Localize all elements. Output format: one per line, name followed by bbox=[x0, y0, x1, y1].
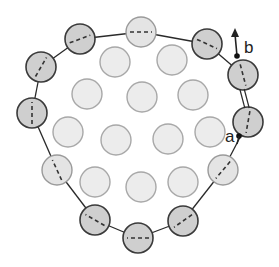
label-a: a bbox=[225, 127, 235, 146]
arrow-up-icon bbox=[231, 28, 239, 37]
boundary-particle bbox=[17, 98, 47, 128]
point-b-marker bbox=[234, 53, 240, 59]
boundary-particle bbox=[192, 29, 222, 59]
arrow-b-shaft bbox=[235, 34, 237, 56]
double-link-line bbox=[240, 89, 245, 108]
interior-particle bbox=[72, 79, 102, 109]
boundary-particle bbox=[233, 107, 263, 137]
interior-particle bbox=[153, 124, 183, 154]
boundary-particle bbox=[228, 60, 258, 90]
double-link-line bbox=[244, 89, 249, 108]
cluster-diagram: b a bbox=[0, 0, 279, 267]
boundary-particle bbox=[65, 24, 95, 54]
interior-particle bbox=[126, 172, 156, 202]
boundary-particle bbox=[123, 223, 153, 253]
interior-particle bbox=[53, 117, 83, 147]
label-b: b bbox=[244, 38, 253, 57]
interior-particle bbox=[80, 167, 110, 197]
interior-particle bbox=[178, 80, 208, 110]
boundary-particle bbox=[42, 155, 72, 185]
boundary-particle bbox=[126, 17, 156, 47]
double-bond-link bbox=[240, 89, 249, 108]
interior-particle bbox=[100, 47, 130, 77]
boundary-particle bbox=[80, 205, 110, 235]
boundary-particle bbox=[168, 206, 198, 236]
interior-particle bbox=[195, 117, 225, 147]
interior-particle bbox=[157, 45, 187, 75]
boundary-particle bbox=[26, 52, 56, 82]
interior-particle bbox=[168, 167, 198, 197]
interior-particle bbox=[101, 125, 131, 155]
interior-particles bbox=[53, 45, 225, 202]
boundary-particle bbox=[208, 155, 238, 185]
interior-particle bbox=[127, 82, 157, 112]
